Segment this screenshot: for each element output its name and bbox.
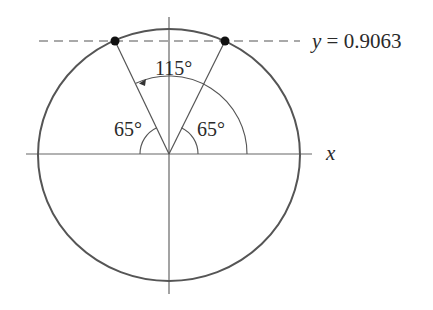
- unit-circle-diagram: y = 0.9063 x 115° 65° 65°: [0, 0, 433, 310]
- x-axis-label: x: [325, 141, 336, 165]
- angle-arc-left: [140, 128, 157, 154]
- point-115deg: [111, 37, 120, 46]
- point-65deg: [221, 37, 230, 46]
- dashed-line-label: y = 0.9063: [310, 29, 401, 53]
- angle-arc-right: [181, 128, 198, 154]
- angle-label-65-left: 65°: [114, 118, 142, 140]
- angle-label-115: 115°: [155, 57, 192, 79]
- angle-arc-115: [136, 76, 247, 154]
- angle-label-65-right: 65°: [197, 118, 225, 140]
